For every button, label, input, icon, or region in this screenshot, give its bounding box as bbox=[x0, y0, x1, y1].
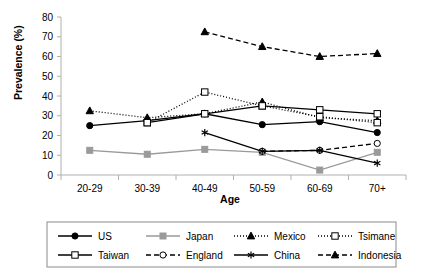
x-tick-label: 20-29 bbox=[77, 183, 103, 194]
data-point-japan bbox=[87, 147, 93, 153]
y-tick-label: 80 bbox=[42, 12, 54, 23]
y-tick-label: 0 bbox=[47, 170, 53, 181]
y-tick-label: 60 bbox=[42, 51, 54, 62]
legend-marker-japan bbox=[160, 233, 166, 239]
legend-label-china: China bbox=[274, 250, 301, 261]
legend-marker-england bbox=[160, 252, 166, 258]
legend-marker-us bbox=[72, 233, 78, 239]
x-tick-label: 70+ bbox=[369, 183, 386, 194]
data-point-tsimane bbox=[202, 89, 208, 95]
x-tick-label: 60-69 bbox=[307, 183, 333, 194]
data-point-mexico bbox=[86, 107, 93, 114]
data-point-us bbox=[374, 129, 380, 135]
x-axis-ticks: 20-2930-3940-4950-5960-6970+ bbox=[61, 175, 406, 194]
x-tick-label: 40-49 bbox=[192, 183, 218, 194]
legend-marker-taiwan bbox=[72, 252, 78, 258]
y-axis-title: Prevalence (%) bbox=[12, 25, 24, 100]
y-tick-label: 50 bbox=[42, 71, 54, 82]
y-tick-label: 20 bbox=[42, 130, 54, 141]
data-point-japan bbox=[317, 167, 323, 173]
x-tick-label: 50-59 bbox=[249, 183, 275, 194]
data-point-japan bbox=[202, 146, 208, 152]
series-line-us bbox=[90, 114, 378, 133]
data-point-taiwan bbox=[259, 103, 265, 109]
legend-marker-tsimane bbox=[332, 233, 338, 239]
data-point-japan bbox=[374, 149, 380, 155]
legend-label-japan: Japan bbox=[186, 231, 213, 242]
data-point-japan bbox=[144, 151, 150, 157]
prevalence-by-age-line-chart: Prevalence (%) Age 01020304050607080 20-… bbox=[0, 0, 431, 274]
data-point-taiwan bbox=[144, 119, 150, 125]
y-tick-label: 70 bbox=[42, 31, 54, 42]
data-point-us bbox=[259, 122, 265, 128]
data-point-england bbox=[374, 140, 380, 146]
series-line-indonesia bbox=[205, 32, 378, 57]
series-japan bbox=[87, 146, 381, 173]
chart-container: Prevalence (%) Age 01020304050607080 20-… bbox=[0, 0, 431, 274]
legend-label-mexico: Mexico bbox=[274, 231, 306, 242]
series-line-china bbox=[205, 133, 378, 164]
series-us bbox=[87, 111, 381, 136]
legend-label-england: England bbox=[186, 250, 223, 261]
series-line-japan bbox=[90, 149, 378, 170]
y-tick-label: 40 bbox=[42, 91, 54, 102]
data-point-tsimane bbox=[374, 119, 380, 125]
y-tick-label: 10 bbox=[42, 150, 54, 161]
data-point-china bbox=[202, 129, 208, 136]
x-tick-label: 30-39 bbox=[134, 183, 160, 194]
data-point-us bbox=[87, 123, 93, 129]
data-point-indonesia bbox=[201, 28, 208, 35]
x-axis-title: Age bbox=[220, 193, 240, 205]
series-layer bbox=[86, 28, 381, 173]
legend-label-taiwan: Taiwan bbox=[98, 250, 129, 261]
data-point-taiwan bbox=[317, 107, 323, 113]
series-indonesia bbox=[201, 28, 381, 59]
legend-label-us: US bbox=[98, 231, 112, 242]
data-point-taiwan bbox=[374, 111, 380, 117]
data-point-tsimane bbox=[317, 114, 323, 120]
legend-label-tsimane: Tsimane bbox=[358, 231, 396, 242]
data-point-taiwan bbox=[202, 111, 208, 117]
y-tick-label: 30 bbox=[42, 110, 54, 121]
y-axis-ticks: 01020304050607080 bbox=[42, 12, 61, 181]
legend-label-indonesia: Indonesia bbox=[358, 250, 402, 261]
